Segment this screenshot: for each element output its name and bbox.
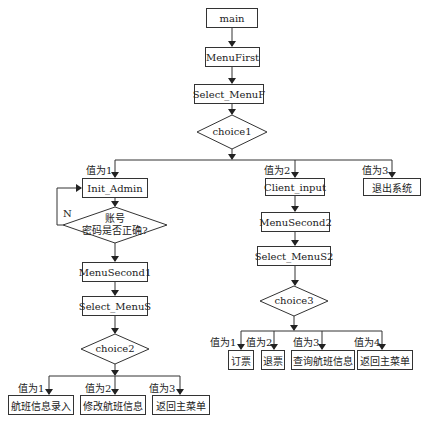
node-refund-ticket: 退票 xyxy=(261,350,285,370)
label-choice3-value2: 值为2 xyxy=(246,334,272,349)
label-choice1-value3: 值为3 xyxy=(362,162,388,177)
label-choice1-value1: 值为1 xyxy=(86,162,112,177)
node-select-menus2: Select_MenuS2 xyxy=(257,246,331,266)
node-flight-entry: 航班信息录入 xyxy=(8,395,74,415)
node-book-ticket: 订票 xyxy=(228,350,254,370)
node-return-main2: 返回主菜单 xyxy=(357,350,413,370)
decision-choice1: choice1 xyxy=(207,126,257,138)
node-menu-second2: MenuSecond2 xyxy=(261,212,330,232)
label-choice2-value1: 值为1 xyxy=(18,380,44,395)
label-choice1-value2: 值为2 xyxy=(264,162,290,177)
node-menu-second1: MenuSecond1 xyxy=(82,262,148,282)
node-main: main xyxy=(206,8,258,28)
decision-line2: 密码是否正确? xyxy=(75,225,155,237)
node-init-admin: Init_Admin xyxy=(82,178,148,198)
decision-choice2: choice2 xyxy=(90,343,140,355)
node-select-menus: Select_MenuS xyxy=(82,296,148,316)
node-select-menuf: Select_MenuF xyxy=(194,84,264,104)
label-choice3-value4: 值为4 xyxy=(354,334,380,349)
node-client-input: Client_input xyxy=(265,178,325,196)
label-choice3-value1: 值为1 xyxy=(210,334,236,349)
label-no: N xyxy=(63,208,72,219)
label-choice3-value3: 值为3 xyxy=(293,334,319,349)
label-choice2-value3: 值为3 xyxy=(149,380,175,395)
label-choice2-value2: 值为2 xyxy=(85,380,111,395)
node-exit-system: 退出系统 xyxy=(363,178,421,196)
node-return-main1: 返回主菜单 xyxy=(152,395,210,415)
node-modify-flight: 修改航班信息 xyxy=(80,395,146,415)
node-menu-first: MenuFirst xyxy=(205,47,260,67)
node-query-flight: 查询航班信息 xyxy=(291,350,355,370)
decision-choice3: choice3 xyxy=(269,295,319,307)
decision-line1: 账号 xyxy=(75,213,155,225)
decision-credentials-check: 账号 密码是否正确? xyxy=(75,213,155,237)
